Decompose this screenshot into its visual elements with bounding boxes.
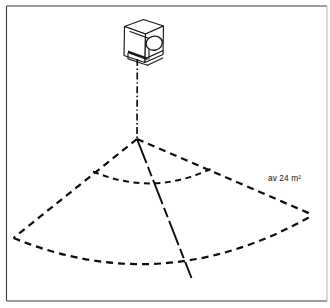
outer-coverage-arc xyxy=(14,215,314,264)
camera-device xyxy=(124,20,164,66)
figure-frame xyxy=(7,6,328,301)
coverage-sector-diagram: av 24 m² xyxy=(0,0,330,308)
inner-coverage-arc xyxy=(93,169,211,183)
sector-left-edge xyxy=(14,139,138,238)
coverage-area-label: av 24 m² xyxy=(268,173,301,183)
figure-root: av 24 m² xyxy=(0,0,330,308)
